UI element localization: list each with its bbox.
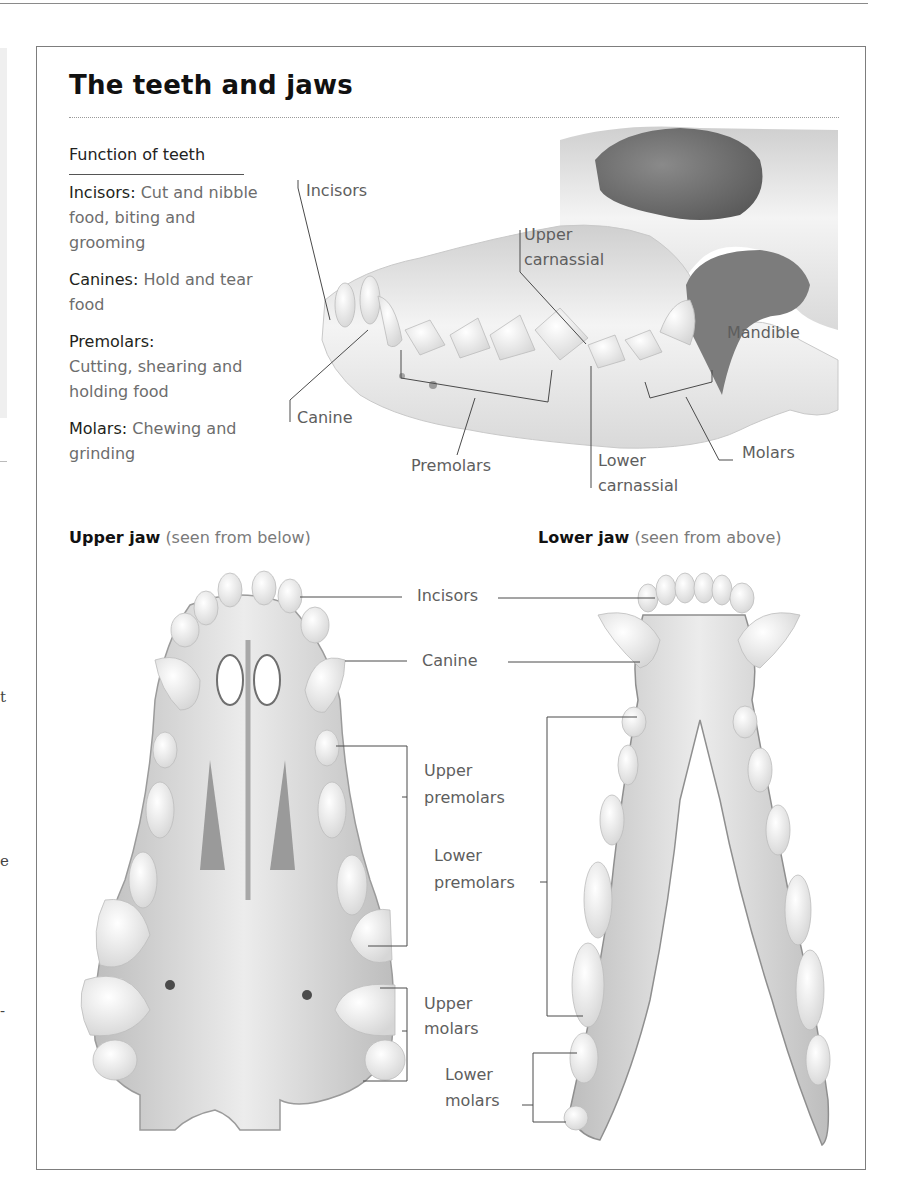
upper-jaw-illustration	[81, 571, 405, 1130]
upper-jaw-heading: Upper jaw (seen from below)	[69, 528, 311, 547]
label-upper-carnassial-line1: Upper	[524, 222, 572, 247]
label-mandible: Mandible	[727, 320, 800, 345]
label-lower-carnassial-line2: carnassial	[598, 473, 678, 498]
label-lower-molars-line2: molars	[445, 1088, 500, 1113]
label-molars-side: Molars	[742, 440, 795, 465]
skull-side-view	[322, 127, 838, 449]
label-upper-carnassial-line2: carnassial	[524, 247, 604, 272]
label-lower-premolars-line1: Lower	[434, 843, 482, 868]
label-lower-carnassial-line1: Lower	[598, 448, 646, 473]
label-canine-jaw: Canine	[422, 648, 478, 673]
label-premolars-side: Premolars	[411, 453, 491, 478]
label-incisors-jaw: Incisors	[417, 583, 478, 608]
lower-jaw-note: (seen from above)	[634, 528, 781, 547]
label-lower-molars-line1: Lower	[445, 1062, 493, 1087]
label-incisors-side: Incisors	[306, 178, 367, 203]
lower-jaw-illustration	[564, 573, 830, 1145]
lower-jaw-heading: Lower jaw (seen from above)	[538, 528, 782, 547]
label-upper-molars-line1: Upper	[424, 991, 472, 1016]
lower-jaw-title: Lower jaw	[538, 528, 629, 547]
label-upper-premolars-line1: Upper	[424, 758, 472, 783]
label-upper-premolars-line2: premolars	[424, 785, 505, 810]
upper-jaw-title: Upper jaw	[69, 528, 160, 547]
upper-jaw-note: (seen from below)	[165, 528, 310, 547]
label-upper-molars-line2: molars	[424, 1016, 479, 1041]
label-lower-premolars-line2: premolars	[434, 870, 515, 895]
label-canine-side: Canine	[297, 405, 353, 430]
